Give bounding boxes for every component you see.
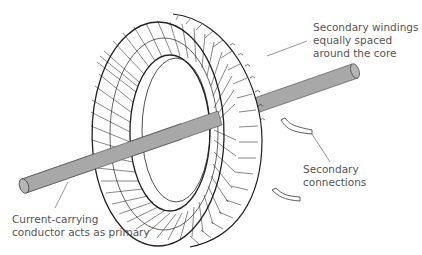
secondary-windings-label: Secondary windings equally spaced around… <box>313 21 418 60</box>
secondary-connections-label: Secondary connections <box>303 163 422 189</box>
primary-conductor-label: Current-carrying conductor acts as prima… <box>12 213 150 239</box>
